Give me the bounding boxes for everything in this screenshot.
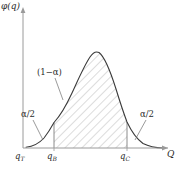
- x-tick-qC-sub: C: [125, 155, 130, 162]
- confidence-region-hatch: [54, 48, 127, 148]
- distribution-figure: φ(q) Q (1−α) α/2 α/2 qT qB qC: [0, 0, 185, 170]
- y-axis-label: φ(q): [1, 2, 20, 11]
- leader-line-tail-left: [33, 120, 43, 140]
- x-tick-qT-sub: T: [20, 155, 24, 162]
- tail-left-label: α/2: [21, 110, 35, 119]
- x-axis-label: Q: [167, 150, 174, 159]
- leader-line-confidence: [55, 78, 63, 100]
- tail-right-label: α/2: [140, 110, 154, 119]
- leader-line-tail-right: [135, 120, 146, 140]
- confidence-region-label: (1−α): [37, 68, 62, 77]
- x-tick-label-qB: qB: [47, 152, 57, 161]
- plot-canvas: [0, 0, 185, 170]
- y-axis-arrow: [21, 7, 26, 13]
- x-tick-qB-sub: B: [52, 155, 56, 162]
- x-tick-label-qT: qT: [15, 152, 24, 161]
- x-tick-label-qC: qC: [120, 152, 130, 161]
